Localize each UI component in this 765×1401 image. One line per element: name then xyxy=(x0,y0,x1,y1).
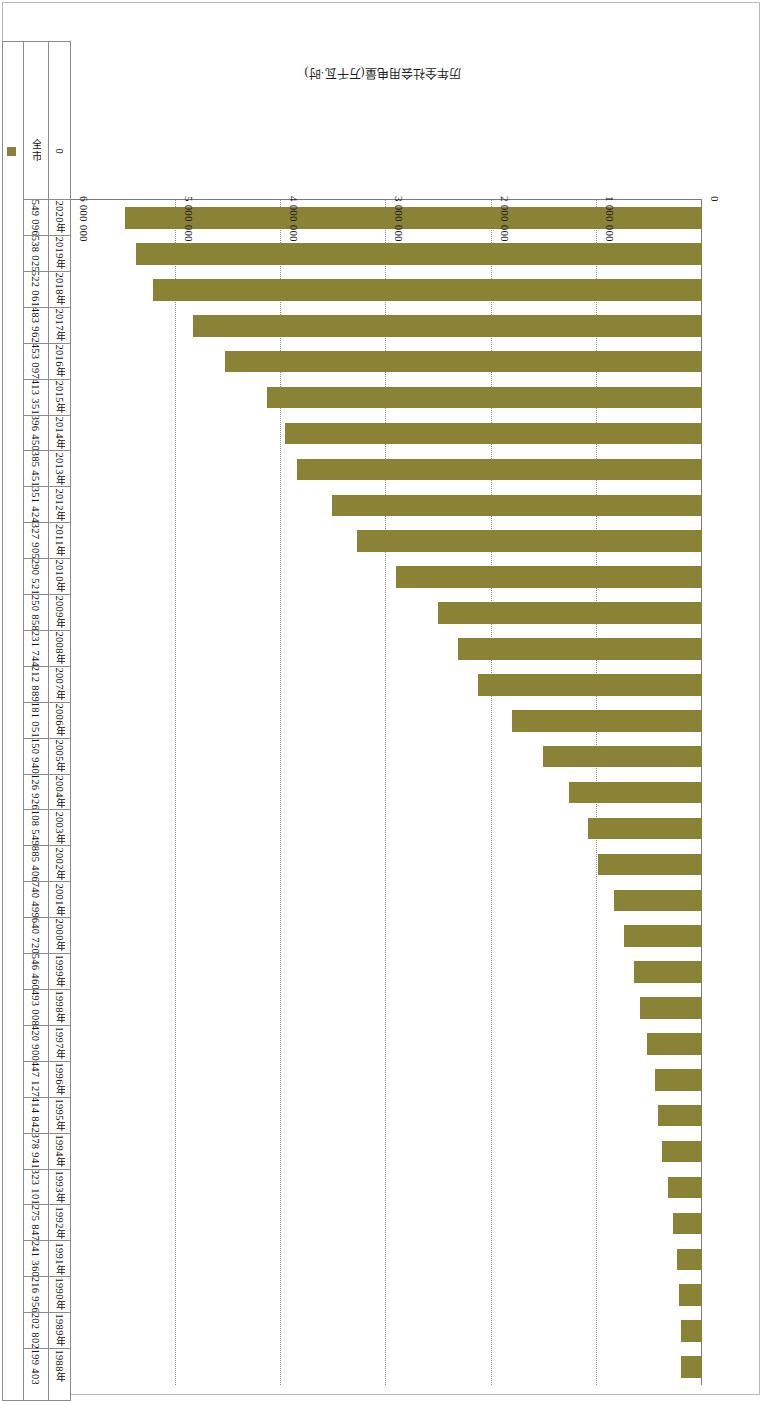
bar-1996年 xyxy=(655,1069,702,1091)
table-cell-value-2014年: 396 450 xyxy=(24,415,48,451)
table-cell-year-2007年: 2007年 xyxy=(49,666,70,702)
table-cell-value-2015年: 413 351 xyxy=(24,379,48,415)
bar-row xyxy=(71,451,702,487)
axis-tick-2000000: 2 000 000 xyxy=(499,196,511,242)
table-cell-value-1999年: 546 460 xyxy=(24,953,48,989)
table-cell-year-1994年: 1994年 xyxy=(49,1133,70,1169)
table-cell-blank xyxy=(1,881,23,917)
bar-row xyxy=(71,990,702,1026)
table-cell-blank xyxy=(1,343,23,379)
axis-tick-6000000: 6 000 000 xyxy=(78,196,90,242)
bar-row xyxy=(71,1134,702,1170)
bar-2014年 xyxy=(285,423,702,445)
table-spacer xyxy=(49,1384,70,1400)
table-cell-blank xyxy=(1,702,23,738)
table-cell-value-2016年: 453 097 xyxy=(24,343,48,379)
table-cell-value-2017年: 483 962 xyxy=(24,307,48,343)
axis-tick-0: 0 xyxy=(49,103,70,199)
table-column-year: 1988年1989年1990年1991年1992年1993年1994年1995年… xyxy=(48,42,70,1400)
table-cell-blank xyxy=(1,917,23,953)
table-cell-year-1996年: 1996年 xyxy=(49,1061,70,1097)
bar-row xyxy=(71,667,702,703)
bar-2013年 xyxy=(297,459,702,481)
table-cell-value-2003年: 108 549 xyxy=(24,810,48,846)
bar-series-全市 xyxy=(71,200,702,1385)
legend-color-swatch xyxy=(8,147,17,156)
bar-2018年 xyxy=(153,279,702,301)
table-cell-value-1990年: 216 956 xyxy=(24,1276,48,1312)
table-cell-year-2001年: 2001年 xyxy=(49,881,70,917)
table-cell-value-2002年: 885 406 xyxy=(24,845,48,881)
plot-area xyxy=(71,200,702,1385)
table-cell-blank xyxy=(1,1169,23,1205)
axis-tick-3000000: 3 000 000 xyxy=(394,196,406,242)
bar-2019年 xyxy=(136,243,702,265)
bar-2002年 xyxy=(598,854,702,876)
table-cell-year-2006年: 2006年 xyxy=(49,702,70,738)
bar-row xyxy=(71,1277,702,1313)
table-cell-value-2011年: 327 905 xyxy=(24,522,48,558)
bar-row xyxy=(71,1026,702,1062)
table-cell-blank xyxy=(1,522,23,558)
bar-row xyxy=(71,811,702,847)
legend-swatch-cell xyxy=(1,103,23,199)
bar-row xyxy=(71,1241,702,1277)
bar-1994年 xyxy=(662,1141,702,1163)
bar-1990年 xyxy=(679,1284,702,1306)
bar-row xyxy=(71,775,702,811)
bar-2001年 xyxy=(614,890,702,912)
table-spacer xyxy=(1,1384,23,1400)
bar-2007年 xyxy=(478,674,702,696)
table-cell-year-2002年: 2002年 xyxy=(49,845,70,881)
table-cell-year-2020年: 2020年 xyxy=(49,199,70,235)
table-cell-year-2019年: 2019年 xyxy=(49,235,70,271)
bar-2009年 xyxy=(438,602,702,624)
table-cell-year-2000年: 2000年 xyxy=(49,917,70,953)
bar-row xyxy=(71,882,702,918)
table-cell-year-2009年: 2009年 xyxy=(49,594,70,630)
value-axis-tick-labels: 01 000 0002 000 0003 000 0004 000 0005 0… xyxy=(71,106,702,196)
axis-title: 历年全社会用电量(万千瓦·时) xyxy=(0,65,765,83)
table-cell-value-2018年: 522 061 xyxy=(24,271,48,307)
table-cell-blank xyxy=(1,1204,23,1240)
bar-2006年 xyxy=(512,710,702,732)
table-cell-value-2004年: 126 926 xyxy=(24,774,48,810)
table-cell-value-2005年: 150 940 xyxy=(24,738,48,774)
bar-row xyxy=(71,1349,702,1385)
bar-2012年 xyxy=(332,495,702,517)
table-cell-value-1994年: 378 941 xyxy=(24,1133,48,1169)
bar-row xyxy=(71,703,702,739)
table-cell-value-1988年: 199 403 xyxy=(24,1348,48,1384)
table-cell-year-1988年: 1988年 xyxy=(49,1348,70,1384)
table-cell-blank xyxy=(1,738,23,774)
table-cell-value-2013年: 385 451 xyxy=(24,450,48,486)
table-cell-value-1992年: 275 847 xyxy=(24,1204,48,1240)
bar-row xyxy=(71,631,702,667)
table-cell-blank xyxy=(1,774,23,810)
bar-row xyxy=(71,1313,702,1349)
table-cell-value-1998年: 493 008 xyxy=(24,989,48,1025)
table-cell-value-2010年: 290 521 xyxy=(24,558,48,594)
bar-2000年 xyxy=(624,925,702,947)
table-cell-year-1997年: 1997年 xyxy=(49,1025,70,1061)
bar-1995年 xyxy=(658,1105,702,1127)
table-cell-year-2015年: 2015年 xyxy=(49,379,70,415)
axis-tick-1000000: 1 000 000 xyxy=(604,196,616,242)
bar-chart-figure: 01 000 0002 000 0003 000 0004 000 0005 0… xyxy=(0,0,765,1401)
table-cell-year-2008年: 2008年 xyxy=(49,630,70,666)
table-cell-blank xyxy=(1,1097,23,1133)
bar-1998年 xyxy=(640,997,702,1019)
table-cell-value-2000年: 640 720 xyxy=(24,917,48,953)
table-cell-blank xyxy=(1,630,23,666)
bar-1993年 xyxy=(668,1177,702,1199)
table-cell-year-1993年: 1993年 xyxy=(49,1169,70,1205)
table-cell-value-2008年: 231 744 xyxy=(24,630,48,666)
table-cell-year-2011年: 2011年 xyxy=(49,522,70,558)
bar-row xyxy=(71,559,702,595)
table-cell-year-2013年: 2013年 xyxy=(49,450,70,486)
table-cell-value-2019年: 538 025 xyxy=(24,235,48,271)
table-cell-year-1990年: 1990年 xyxy=(49,1276,70,1312)
table-cell-value-2012年: 351 424 xyxy=(24,486,48,522)
bar-row xyxy=(71,846,702,882)
bar-2017年 xyxy=(193,315,702,337)
